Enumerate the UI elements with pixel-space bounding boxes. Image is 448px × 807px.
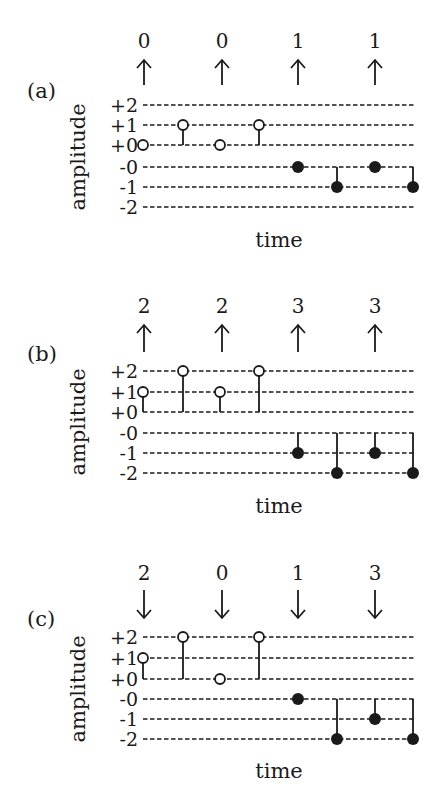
open-sample-marker xyxy=(138,653,148,663)
open-sample-marker xyxy=(215,674,225,684)
level-label: +0 xyxy=(110,668,138,690)
y-axis-label: amplitude xyxy=(66,103,90,210)
y-axis-label: amplitude xyxy=(66,368,90,475)
symbol-value: 3 xyxy=(369,561,382,585)
symbol-value: 1 xyxy=(369,29,382,53)
level-label: +0 xyxy=(110,401,138,423)
open-sample-marker xyxy=(254,120,264,130)
filled-sample-marker xyxy=(369,161,381,173)
level-label: +0 xyxy=(110,134,138,156)
panel-a: (a)amplitude+2+1+0-0-1-20011time xyxy=(27,29,419,252)
filled-sample-marker xyxy=(292,447,304,459)
x-axis-label: time xyxy=(255,494,303,518)
arrow-down-icon xyxy=(291,590,305,618)
filled-sample-marker xyxy=(331,467,343,479)
level-label: +2 xyxy=(110,626,138,648)
panel-label: (c) xyxy=(27,607,55,631)
arrow-up-icon xyxy=(215,325,229,352)
symbol-value: 0 xyxy=(216,29,229,53)
level-label: -0 xyxy=(119,156,138,178)
arrow-down-icon xyxy=(368,590,382,618)
open-sample-marker xyxy=(178,120,188,130)
arrow-up-icon xyxy=(291,60,305,85)
level-label: -1 xyxy=(119,708,138,730)
arrow-up-icon xyxy=(137,60,151,85)
x-axis-label: time xyxy=(255,228,303,252)
panel-b: (b)amplitude+2+1+0-0-1-22233time xyxy=(27,294,419,518)
level-label: +1 xyxy=(110,647,138,669)
arrow-down-icon xyxy=(137,590,151,618)
panel-label: (a) xyxy=(27,79,56,103)
arrow-up-icon xyxy=(368,60,382,85)
open-sample-marker xyxy=(254,366,264,376)
open-sample-marker xyxy=(138,387,148,397)
filled-sample-marker xyxy=(292,161,304,173)
symbol-value: 2 xyxy=(216,294,229,318)
level-label: -0 xyxy=(119,422,138,444)
arrow-up-icon xyxy=(137,325,151,352)
filled-sample-marker xyxy=(331,733,343,745)
symbol-value: 3 xyxy=(369,294,382,318)
open-sample-marker xyxy=(215,140,225,150)
open-sample-marker xyxy=(178,366,188,376)
filled-sample-marker xyxy=(407,467,419,479)
symbol-value: 3 xyxy=(292,294,305,318)
arrow-up-icon xyxy=(291,325,305,352)
panel-c: (c)amplitude+2+1+0-0-1-22013time xyxy=(27,561,419,783)
arrow-up-icon xyxy=(215,60,229,85)
level-label: +2 xyxy=(110,94,138,116)
filled-sample-marker xyxy=(369,447,381,459)
symbol-value: 0 xyxy=(138,29,151,53)
level-label: +2 xyxy=(110,360,138,382)
open-sample-marker xyxy=(178,632,188,642)
filled-sample-marker xyxy=(292,693,304,705)
symbol-value: 0 xyxy=(216,561,229,585)
y-axis-label: amplitude xyxy=(66,635,90,742)
filled-sample-marker xyxy=(369,713,381,725)
filled-sample-marker xyxy=(331,181,343,193)
open-sample-marker xyxy=(138,140,148,150)
arrow-down-icon xyxy=(215,590,229,618)
quantization-figure: (a)amplitude+2+1+0-0-1-20011time(b)ampli… xyxy=(0,0,448,807)
level-label: -2 xyxy=(119,196,138,218)
level-label: -2 xyxy=(119,462,138,484)
level-label: -0 xyxy=(119,688,138,710)
level-label: -2 xyxy=(119,728,138,750)
open-sample-marker xyxy=(254,632,264,642)
filled-sample-marker xyxy=(407,733,419,745)
filled-sample-marker xyxy=(407,181,419,193)
symbol-value: 1 xyxy=(292,561,305,585)
level-label: +1 xyxy=(110,114,138,136)
panel-label: (b) xyxy=(27,342,57,366)
arrow-up-icon xyxy=(368,325,382,352)
symbol-value: 2 xyxy=(138,294,151,318)
level-label: -1 xyxy=(119,176,138,198)
level-label: +1 xyxy=(110,381,138,403)
symbol-value: 1 xyxy=(292,29,305,53)
x-axis-label: time xyxy=(255,759,303,783)
open-sample-marker xyxy=(215,387,225,397)
symbol-value: 2 xyxy=(138,561,151,585)
level-label: -1 xyxy=(119,442,138,464)
